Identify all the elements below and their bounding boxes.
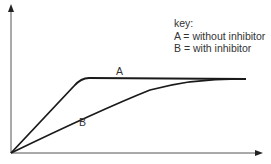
legend-a: A = without inhibitor (174, 30, 265, 43)
legend: key: A = without inhibitor B = with inhi… (174, 17, 265, 55)
label-a: A (116, 65, 123, 77)
y-axis (8, 4, 14, 153)
label-b: B (79, 116, 86, 128)
x-axis-arrow-icon (255, 150, 263, 156)
y-axis-arrow-icon (8, 4, 14, 12)
legend-b: B = with inhibitor (174, 42, 265, 55)
legend-title: key: (174, 17, 265, 30)
x-axis (11, 150, 263, 156)
curve-a (11, 78, 246, 153)
